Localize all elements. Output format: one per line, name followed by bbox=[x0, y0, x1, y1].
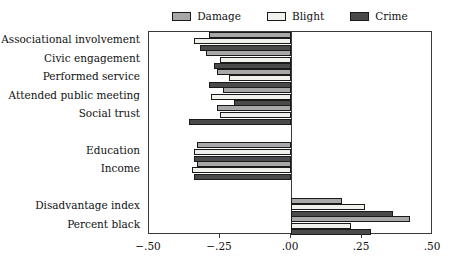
legend-swatch-damage-icon bbox=[172, 12, 191, 21]
bar-damage-civic-engagement bbox=[206, 50, 291, 56]
bar-damage-percent-black bbox=[291, 216, 410, 222]
bar-crime-social-trust bbox=[189, 119, 291, 125]
bar-crime-income bbox=[194, 174, 291, 180]
bar-blight-percent-black bbox=[291, 223, 351, 229]
y-axis-label-education: Education bbox=[86, 145, 140, 156]
legend-item-crime: Crime bbox=[350, 11, 408, 22]
bar-damage-performed-service bbox=[217, 69, 291, 75]
y-axis-label-associational-involvement: Associational involvement bbox=[1, 34, 140, 45]
chart-legend: Damage Blight Crime bbox=[148, 6, 432, 26]
bar-blight-civic-engagement bbox=[220, 57, 291, 63]
x-tick-label-1: −.25 bbox=[206, 240, 232, 252]
bar-damage-income bbox=[197, 161, 291, 167]
legend-label-damage: Damage bbox=[197, 11, 241, 22]
x-tick-mark-0 bbox=[148, 234, 149, 238]
y-axis-label-percent-black: Percent black bbox=[67, 219, 140, 230]
bar-blight-performed-service bbox=[229, 75, 291, 81]
horizontal-bar-chart: Damage Blight Crime Associational involv… bbox=[0, 0, 457, 268]
y-axis-label-social-trust: Social trust bbox=[79, 108, 140, 119]
legend-item-damage: Damage bbox=[172, 11, 241, 22]
bar-damage-social-trust bbox=[217, 105, 291, 111]
bar-damage-disadvantage-index bbox=[291, 198, 342, 204]
x-tick-label-0: −.50 bbox=[135, 240, 161, 252]
legend-label-crime: Crime bbox=[375, 11, 408, 22]
bar-blight-social-trust bbox=[220, 112, 291, 118]
legend-swatch-crime-icon bbox=[350, 12, 369, 21]
x-tick-mark-3 bbox=[361, 234, 362, 238]
y-axis-label-attended-public-meeting: Attended public meeting bbox=[9, 90, 140, 101]
bar-blight-income bbox=[192, 167, 291, 173]
bar-blight-education bbox=[194, 149, 291, 155]
x-tick-label-4: .50 bbox=[424, 240, 441, 252]
x-axis: −.50−.25.00.25.50 bbox=[148, 234, 432, 264]
x-tick-mark-2 bbox=[290, 234, 291, 238]
y-axis-label-civic-engagement: Civic engagement bbox=[44, 53, 140, 64]
x-tick-label-3: .25 bbox=[353, 240, 370, 252]
y-axis-label-disadvantage-index: Disadvantage index bbox=[35, 200, 140, 211]
bar-damage-attended-public-meeting bbox=[223, 87, 291, 93]
x-tick-label-2: .00 bbox=[282, 240, 299, 252]
legend-item-blight: Blight bbox=[267, 11, 324, 22]
x-tick-mark-1 bbox=[219, 234, 220, 238]
bar-blight-associational-involvement bbox=[194, 38, 291, 44]
legend-swatch-blight-icon bbox=[267, 12, 286, 21]
bar-blight-disadvantage-index bbox=[291, 204, 365, 210]
y-axis-label-income: Income bbox=[101, 163, 140, 174]
bar-damage-education bbox=[197, 142, 291, 148]
x-tick-mark-4 bbox=[432, 234, 433, 238]
bar-blight-attended-public-meeting bbox=[211, 94, 291, 100]
y-axis-label-performed-service: Performed service bbox=[43, 71, 140, 82]
plot-inner bbox=[149, 32, 431, 233]
y-axis-category-labels: Associational involvementCivic engagemen… bbox=[0, 31, 144, 234]
legend-label-blight: Blight bbox=[292, 11, 324, 22]
plot-area bbox=[148, 31, 432, 234]
bar-damage-associational-involvement bbox=[209, 32, 291, 38]
